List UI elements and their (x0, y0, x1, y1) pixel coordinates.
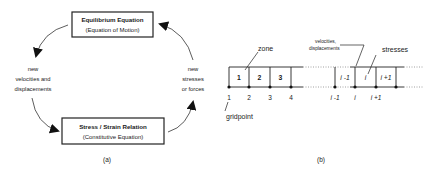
zone-i-plus-1: i +1 (380, 74, 391, 81)
caption-a: (a) (103, 156, 111, 164)
arrow-left-to-bottom-icon (32, 98, 58, 131)
gridpoint-i-minus-1: i -1 (330, 94, 339, 101)
zone-label: zone (258, 45, 273, 52)
arrow-bottom-to-right-icon (168, 102, 193, 132)
svg-text:new: new (28, 66, 39, 72)
right-grid: i -1 i i +1 i -1 i i +1 velocities, disp… (309, 39, 424, 101)
gridpoint-i-plus-1: i +1 (371, 94, 382, 101)
equilibrium-title: Equilibrium Equation (81, 16, 143, 23)
new-stresses-label: new stresses or forces (182, 66, 205, 92)
caption-b: (b) (317, 156, 325, 164)
velocities-leader-icon (340, 45, 364, 66)
zone-3: 3 (279, 74, 283, 81)
diagram-canvas: Equilibrium Equation (Equation of Motion… (0, 0, 428, 172)
svg-text:displacements: displacements (14, 86, 51, 92)
gridpoint-i: i (354, 94, 356, 101)
gridpoint-1: 1 (227, 94, 231, 101)
gridpoint-label: gridpoint (226, 113, 253, 121)
new-velocities-label: new velocities and displacements (14, 66, 51, 92)
stress-strain-title: Stress / Strain Relation (79, 123, 147, 130)
arrow-right-to-top-icon (160, 24, 193, 60)
stresses-leader-icon (368, 55, 376, 74)
panel-a: Equilibrium Equation (Equation of Motion… (14, 12, 204, 164)
velocities-label-1: velocities, (315, 39, 336, 44)
equilibrium-subtitle: (Equation of Motion) (85, 27, 139, 33)
svg-text:new: new (188, 66, 199, 72)
stresses-label: stresses (382, 46, 409, 53)
panel-b: 1 2 3 1 2 3 4 zone gridpoint (225, 39, 424, 164)
velocities-label-2: displacements (309, 46, 340, 51)
gridpoint-leader-icon (225, 102, 228, 111)
gridpoint-3: 3 (268, 94, 272, 101)
zone-1: 1 (237, 74, 241, 81)
zone-i: i (365, 74, 367, 81)
zone-2: 2 (258, 74, 262, 81)
svg-text:or forces: or forces (182, 86, 205, 92)
zone-i-minus-1: i -1 (340, 74, 350, 81)
gridpoint-4: 4 (289, 94, 293, 101)
gridpoint-2: 2 (247, 94, 251, 101)
arrow-top-to-left-icon (36, 25, 68, 56)
stress-strain-subtitle: (Constitutive Equation) (83, 134, 144, 140)
stress-strain-box: Stress / Strain Relation (Constitutive E… (62, 118, 164, 144)
left-grid: 1 2 3 1 2 3 4 zone gridpoint (225, 45, 335, 121)
equilibrium-equation-box: Equilibrium Equation (Equation of Motion… (72, 12, 153, 37)
svg-text:stresses: stresses (182, 76, 204, 82)
svg-text:velocities and: velocities and (15, 76, 50, 82)
